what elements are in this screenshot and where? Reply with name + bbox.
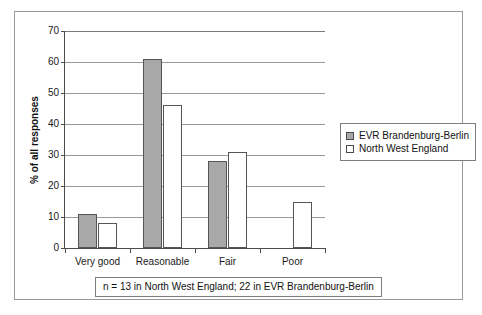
x-category-label-very-good: Very good [75,257,120,267]
legend-item-label: North West England [359,143,448,154]
bar-reasonable-series-0 [143,59,162,248]
chart-legend: EVR Brandenburg-BerlinNorth West England [340,123,476,161]
y-tick-label-60: 60 [48,57,59,67]
bar-very-good-series-1 [98,223,117,248]
x-category-label-poor: Poor [282,257,303,267]
legend-item-label: EVR Brandenburg-Berlin [359,130,469,141]
y-tick-label-40: 40 [48,119,59,129]
y-tick-label-0: 0 [53,243,59,253]
bar-fair-series-0 [208,161,227,248]
chart-figure: % of all responses 010203040506070 Very … [14,11,463,300]
bar-poor-series-1 [293,202,312,249]
y-tick-label-70: 70 [48,26,59,36]
y-tick-label-10: 10 [48,212,59,222]
legend-item-0: EVR Brandenburg-Berlin [346,130,469,141]
y-axis-title-text: % of all responses [30,96,40,184]
x-category-label-fair: Fair [219,257,236,267]
plot-area: 010203040506070 Very goodReasonableFairP… [64,31,325,249]
bar-very-good-series-0 [78,214,97,248]
bars-layer [65,31,325,248]
y-tick-label-30: 30 [48,150,59,160]
y-axis-title: % of all responses [28,31,42,249]
y-tick-label-50: 50 [48,88,59,98]
chart-footnote: n = 13 in North West England; 22 in EVR … [95,277,382,297]
x-tick-mark-end [325,248,326,253]
legend-swatch-icon-1 [346,145,354,153]
x-tick-mark-2 [195,248,196,253]
legend-item-1: North West England [346,143,469,154]
bar-fair-series-1 [228,152,247,248]
x-tick-mark-0 [65,248,66,253]
x-tick-mark-3 [260,248,261,253]
x-tick-mark-1 [130,248,131,253]
bar-reasonable-series-1 [163,105,182,248]
legend-swatch-icon-0 [346,132,354,140]
y-tick-label-20: 20 [48,181,59,191]
x-category-label-reasonable: Reasonable [136,257,189,267]
